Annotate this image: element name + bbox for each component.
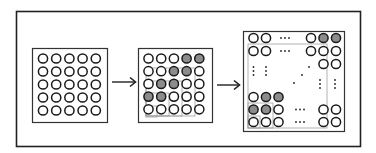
empty-circle xyxy=(261,33,270,42)
ellipsis-dot xyxy=(299,121,301,123)
empty-circle xyxy=(331,117,340,126)
ellipsis-dot xyxy=(319,83,321,85)
shaded-circle xyxy=(182,67,191,76)
empty-circle xyxy=(65,93,74,102)
ellipsis-dot xyxy=(265,70,267,72)
ellipsis-dot xyxy=(303,121,305,123)
shaded-circle xyxy=(169,79,178,88)
empty-circle xyxy=(249,46,258,55)
empty-circle xyxy=(38,67,47,76)
empty-circle xyxy=(169,92,178,101)
empty-circle xyxy=(65,80,74,89)
empty-circle xyxy=(144,54,153,63)
empty-circle xyxy=(306,33,315,42)
empty-circle xyxy=(65,106,74,115)
empty-circle xyxy=(182,105,191,114)
empty-circle xyxy=(91,93,100,102)
empty-circle xyxy=(195,67,204,76)
grid-3-guide-boxes xyxy=(248,44,327,128)
empty-circle xyxy=(38,54,47,63)
empty-circle xyxy=(319,59,328,68)
ellipsis-dot xyxy=(334,79,336,81)
empty-circle xyxy=(52,67,61,76)
empty-circle xyxy=(319,117,328,126)
ellipsis-dot xyxy=(265,74,267,76)
shaded-circle xyxy=(195,54,204,63)
empty-circle xyxy=(52,106,61,115)
ellipsis-dot xyxy=(280,50,282,52)
shaded-circle xyxy=(331,33,340,42)
empty-circle xyxy=(306,46,315,55)
empty-circle xyxy=(261,117,270,126)
empty-circle xyxy=(52,80,61,89)
ellipsis-dot xyxy=(319,87,321,89)
empty-circle xyxy=(52,54,61,63)
empty-circle xyxy=(169,105,178,114)
empty-circle xyxy=(274,105,283,114)
arrow-1-icon xyxy=(112,78,136,87)
empty-circle xyxy=(249,92,258,101)
ellipsis-dot xyxy=(253,74,255,76)
shaded-circle xyxy=(182,54,191,63)
empty-circle xyxy=(91,67,100,76)
empty-circle xyxy=(52,93,61,102)
empty-circle xyxy=(331,46,340,55)
empty-circle xyxy=(182,79,191,88)
shaded-circle xyxy=(157,79,166,88)
empty-circle xyxy=(331,59,340,68)
ellipsis-dot xyxy=(303,109,305,111)
ellipsis-dot xyxy=(299,109,301,111)
ellipsis-dot xyxy=(319,79,321,81)
empty-circle xyxy=(78,106,87,115)
empty-circle xyxy=(78,93,87,102)
ellipsis-dot xyxy=(253,70,255,72)
ellipsis-dot xyxy=(295,121,297,123)
empty-circle xyxy=(78,80,87,89)
empty-circle xyxy=(169,54,178,63)
shaded-circle xyxy=(144,92,153,101)
empty-circle xyxy=(144,105,153,114)
empty-circle xyxy=(157,105,166,114)
arrow-2-icon xyxy=(217,81,240,90)
empty-circle xyxy=(274,117,283,126)
grid-1 xyxy=(38,54,100,115)
ellipsis-dot xyxy=(253,66,255,68)
empty-circle xyxy=(319,46,328,55)
diagonal-ellipsis-dot xyxy=(293,82,295,84)
ellipsis-dot xyxy=(288,50,290,52)
empty-circle xyxy=(249,33,258,42)
empty-circle xyxy=(91,80,100,89)
empty-circle xyxy=(78,67,87,76)
shaded-circle xyxy=(274,92,283,101)
empty-circle xyxy=(195,79,204,88)
diagram-canvas xyxy=(0,0,376,153)
empty-circle xyxy=(157,67,166,76)
empty-circle xyxy=(144,79,153,88)
shaded-circle xyxy=(169,67,178,76)
ellipsis-dot xyxy=(334,83,336,85)
shaded-circle xyxy=(319,33,328,42)
shaded-circle xyxy=(261,92,270,101)
empty-circle xyxy=(195,105,204,114)
empty-circle xyxy=(331,105,340,114)
empty-circle xyxy=(157,54,166,63)
empty-circle xyxy=(38,106,47,115)
empty-circle xyxy=(261,46,270,55)
grid-3-frame xyxy=(244,32,345,132)
empty-circle xyxy=(144,67,153,76)
empty-circle xyxy=(38,93,47,102)
ellipsis-dot xyxy=(334,87,336,89)
shaded-circle xyxy=(249,105,258,114)
empty-circle xyxy=(195,92,204,101)
ellipsis-dot xyxy=(295,109,297,111)
empty-circle xyxy=(319,105,328,114)
ellipsis-dot xyxy=(284,37,286,39)
empty-circle xyxy=(249,117,258,126)
empty-circle xyxy=(38,80,47,89)
empty-circle xyxy=(78,54,87,63)
shaded-circle xyxy=(157,92,166,101)
ellipsis-dot xyxy=(284,50,286,52)
empty-circle xyxy=(65,67,74,76)
empty-circle xyxy=(65,54,74,63)
ellipsis-dot xyxy=(288,37,290,39)
